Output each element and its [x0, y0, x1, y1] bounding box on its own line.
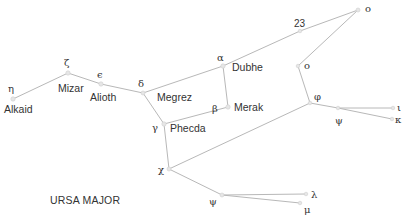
star-phi	[308, 101, 312, 105]
label-psi2: ψ	[209, 196, 217, 207]
label-lambda: λ	[311, 189, 318, 200]
line-psi2-mu	[222, 195, 300, 203]
star-alkaid	[11, 97, 15, 101]
star-alioth	[99, 82, 103, 86]
label-phi: φ	[314, 91, 321, 102]
star-23	[298, 29, 302, 33]
star-lambda	[304, 192, 308, 196]
star-psi	[336, 106, 340, 110]
star-omicron2	[296, 64, 300, 68]
constellation-title: URSA MAJOR	[50, 194, 120, 206]
line-omicron2-phi	[298, 66, 310, 103]
line-dubhe-merak	[223, 66, 228, 107]
label-chi: χ	[158, 164, 164, 175]
star-megrez	[141, 91, 145, 95]
line-psi2-lambda	[222, 194, 306, 195]
star-names: Alkaid Mizar Alioth Megrez Dubhe Merak P…	[4, 61, 264, 134]
star-omicron	[356, 8, 360, 12]
label-omicron: ο	[365, 3, 371, 14]
star-markers	[11, 8, 395, 205]
label-gamma: γ	[152, 122, 158, 133]
star-mizar	[66, 71, 70, 75]
star-mu	[298, 201, 302, 205]
star-phecda	[162, 122, 166, 126]
line-omicron-omicron2	[298, 10, 358, 66]
name-phecda: Phecda	[170, 122, 206, 134]
ursa-major-constellation-diagram: η ζ ϵ δ α β γ 23 ο ο φ ψ ι κ χ ψ λ μ Alk…	[0, 0, 406, 217]
label-alpha: α	[217, 52, 224, 63]
line-23-omicron	[300, 10, 358, 31]
star-dubhe	[221, 64, 225, 68]
star-iota	[391, 106, 395, 110]
star-kappa	[390, 117, 394, 121]
name-alkaid: Alkaid	[4, 103, 33, 115]
label-psi: ψ	[335, 115, 343, 126]
line-phi-psi	[310, 103, 338, 108]
name-merak: Merak	[234, 101, 264, 113]
name-alioth: Alioth	[90, 91, 116, 103]
line-chi-psi2	[169, 169, 222, 195]
name-megrez: Megrez	[157, 91, 192, 103]
star-merak	[226, 105, 230, 109]
name-mizar: Mizar	[58, 82, 84, 94]
line-psi-kappa	[338, 108, 392, 119]
label-delta: δ	[138, 78, 144, 89]
label-mu: μ	[304, 204, 311, 215]
label-kappa: κ	[395, 114, 402, 125]
star-psi2	[220, 193, 224, 197]
label-beta: β	[212, 103, 218, 114]
label-epsilon: ϵ	[97, 69, 103, 80]
line-phecda-chi	[164, 124, 169, 169]
label-omicron2: ο	[304, 60, 310, 71]
label-iota: ι	[397, 102, 401, 113]
star-chi	[167, 167, 171, 171]
label-zeta: ζ	[64, 57, 70, 68]
line-megrez-dubhe	[143, 66, 223, 93]
name-dubhe: Dubhe	[232, 61, 263, 73]
constellation-lines	[13, 10, 393, 203]
label-eta: η	[8, 83, 14, 94]
label-23: 23	[294, 18, 306, 29]
